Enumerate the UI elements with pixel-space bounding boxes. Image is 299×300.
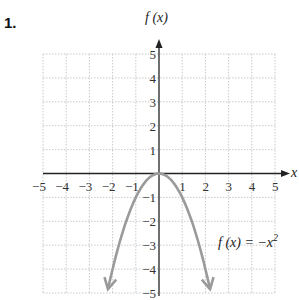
x-tick-label: −5 xyxy=(32,179,46,194)
y-tick-label: −3 xyxy=(142,238,156,253)
graph: 1. f (x) x −5−4−3−2−11234554321−1−2−3−4−… xyxy=(0,0,299,300)
problem-number: 1. xyxy=(4,14,17,31)
x-tick-label: −1 xyxy=(125,179,139,194)
y-tick-label: −2 xyxy=(142,214,156,229)
y-tick-label: 1 xyxy=(150,143,157,158)
x-tick-label: 3 xyxy=(226,179,233,194)
y-axis-arrow-icon xyxy=(156,39,163,48)
y-axis-label: f (x) xyxy=(145,10,168,26)
y-tick-label: 2 xyxy=(150,119,157,134)
x-axis-label: x xyxy=(290,165,298,180)
x-tick-label: 4 xyxy=(249,179,256,194)
x-tick-label: 2 xyxy=(202,179,209,194)
x-tick-label: −2 xyxy=(102,179,116,194)
y-tick-label: −4 xyxy=(142,262,156,277)
x-tick-label: 5 xyxy=(272,179,279,194)
y-tick-label: 3 xyxy=(150,95,157,110)
x-axis-arrow-icon xyxy=(281,170,290,177)
equation-label: f (x) = −x2 xyxy=(218,232,278,251)
y-tick-label: −1 xyxy=(142,190,156,205)
y-tick-label: −5 xyxy=(142,286,156,300)
y-tick-label: 4 xyxy=(150,71,157,86)
y-tick-label: 5 xyxy=(150,47,157,62)
x-tick-label: −3 xyxy=(78,179,92,194)
x-tick-label: −4 xyxy=(55,179,69,194)
